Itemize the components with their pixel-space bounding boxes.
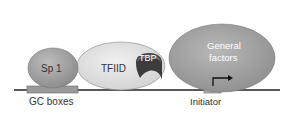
general-factors-label-line2: factors — [209, 52, 238, 63]
gc-boxes-label: GC boxes — [29, 96, 73, 107]
tfiid-label: TFIID — [101, 63, 126, 74]
general-factors-label-line1: General — [207, 40, 241, 51]
initiator-label: Initiator — [190, 96, 221, 107]
sp1-label: Sp 1 — [41, 63, 62, 74]
tbp-label: TBP — [139, 53, 157, 63]
promoter-diagram: Sp 1 TFIID TBP General factors GC boxes … — [0, 0, 290, 114]
